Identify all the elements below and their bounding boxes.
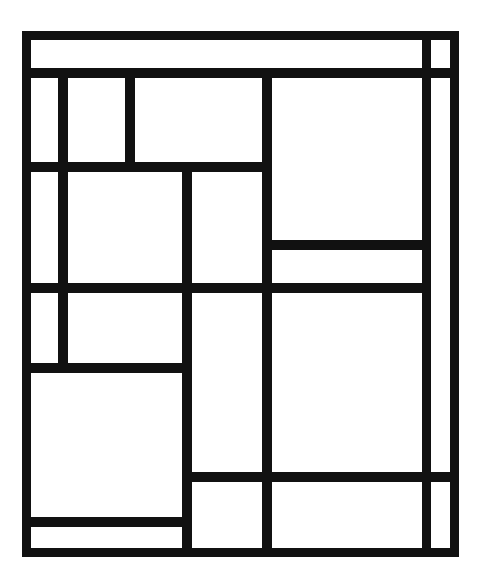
artwork-stage: Composition with Grid De Stijl / Neoplas…: [0, 0, 483, 587]
vertical-line-v-mid-left: [182, 162, 192, 557]
horizontal-line-h-left-fourth: [22, 363, 192, 373]
horizontal-line-frame-top: [22, 31, 459, 40]
horizontal-line-h-bottom-strip: [22, 517, 192, 527]
vertical-line-v-right-inner: [422, 31, 431, 557]
vertical-line-frame-right: [450, 31, 459, 557]
composition-canvas: [0, 0, 483, 587]
vertical-line-v-left-inner: [58, 68, 68, 372]
horizontal-line-frame-bottom: [22, 548, 459, 557]
vertical-line-frame-left: [22, 31, 31, 557]
vertical-line-v-upper-short: [125, 68, 135, 171]
vertical-line-v-center: [262, 68, 272, 557]
horizontal-line-h-third-band: [22, 283, 431, 293]
horizontal-line-h-right-thin-top: [262, 240, 431, 250]
horizontal-line-h-lower-band: [182, 472, 459, 482]
horizontal-line-h-top-band: [22, 68, 459, 78]
